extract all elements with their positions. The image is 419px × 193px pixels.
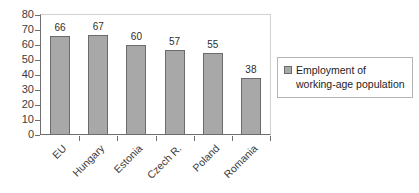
y-tick-mark [35, 135, 40, 136]
x-tick-mark [117, 136, 118, 141]
legend-swatch-icon [284, 66, 292, 74]
y-tick-mark [35, 105, 40, 106]
y-tick-mark [35, 75, 40, 76]
x-tick-mark [156, 136, 157, 141]
y-tick-mark [35, 60, 40, 61]
bar-chart-screenshot: 80706050403020100 666760575538 EUHungary… [0, 0, 419, 193]
legend-label-line2: working-age population [296, 78, 405, 90]
chart-legend: Employment of working-age population [277, 57, 413, 98]
y-tick-mark [35, 90, 40, 91]
x-tick-mark [270, 136, 271, 141]
y-tick-mark [35, 30, 40, 31]
y-tick-mark [35, 45, 40, 46]
x-tick-mark [194, 136, 195, 141]
legend-label: Employment of working-age population [296, 63, 405, 91]
y-tick-mark [35, 15, 40, 16]
x-tick-mark [232, 136, 233, 141]
x-tick-mark [79, 136, 80, 141]
legend-label-line1: Employment of [296, 64, 366, 76]
y-tick-mark [35, 120, 40, 121]
